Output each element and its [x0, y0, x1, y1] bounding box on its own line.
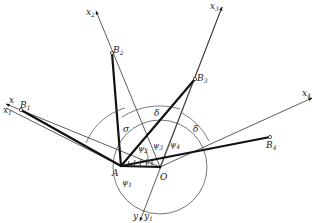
point-B4	[268, 135, 271, 138]
diagram-canvas: A O B1 B2 B3 B4 x x1 x2 x3 x4 y y1 ψ1 ψ2…	[0, 0, 315, 223]
label-axis-x2: x2	[86, 7, 95, 18]
label-axis-x1: x1	[3, 105, 12, 116]
point-O	[159, 166, 162, 169]
label-axis-x: x	[9, 95, 14, 105]
label-axis-x3: x3	[210, 1, 219, 12]
label-sigma: σ	[123, 124, 130, 134]
vector-A-O	[121, 166, 160, 167]
label-B2: B2	[112, 45, 124, 56]
vector-A-B1	[21, 110, 121, 166]
axis-y-line	[140, 7, 222, 221]
label-psi3: ψ3	[153, 141, 163, 151]
label-psi1: ψ1	[122, 178, 132, 188]
axis-x2-line	[96, 11, 160, 167]
label-B4: B4	[265, 140, 277, 151]
label-axis-x4: x4	[302, 88, 311, 99]
label-axis-y1: y1	[143, 211, 153, 222]
label-axis-y: y	[132, 211, 139, 221]
label-psi2: ψ2	[138, 144, 148, 154]
label-delta-mid: δ	[154, 108, 159, 118]
label-B3: B3	[196, 73, 208, 84]
label-psi4: ψ4	[170, 140, 180, 150]
label-A: A	[111, 168, 119, 178]
label-delta-right: δ	[193, 124, 198, 134]
label-O: O	[160, 172, 168, 182]
label-B1: B1	[19, 100, 30, 111]
